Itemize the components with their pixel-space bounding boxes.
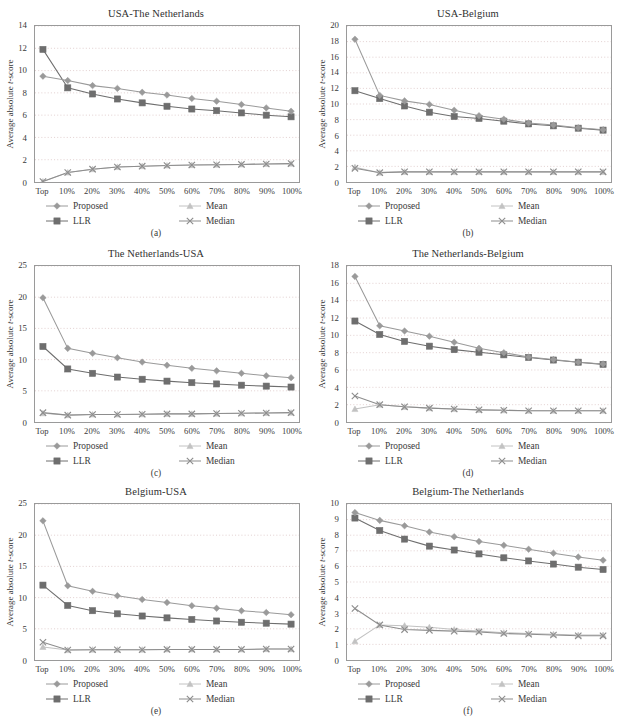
- legend-symbol-mean: [179, 679, 201, 689]
- plot-canvas: [34, 503, 300, 661]
- x-tick-label: 50%: [471, 426, 487, 436]
- x-tick-label: 90%: [259, 186, 275, 196]
- y-tick-label: 15: [18, 561, 27, 571]
- panel-caption: (e): [0, 706, 312, 716]
- legend-item-mean: Mean: [167, 198, 300, 213]
- legend-item-mean: Mean: [167, 676, 300, 691]
- x-tick-label: 80%: [234, 664, 250, 674]
- legend-symbol-mean: [491, 679, 513, 689]
- y-tick-label: 2: [335, 624, 339, 634]
- y-tick-label: 18: [330, 36, 339, 46]
- legend-symbol-mean: [179, 201, 201, 211]
- legend-label-proposed: Proposed: [385, 441, 420, 451]
- y-tick-label: 2: [335, 400, 339, 410]
- y-tick-label: 15: [18, 323, 27, 333]
- legend-label-llr: LLR: [73, 456, 91, 466]
- chart-title: Belgium-The Netherlands: [312, 478, 624, 499]
- y-tick-label: 16: [330, 278, 339, 288]
- x-tick-label: 100%: [594, 426, 614, 436]
- legend-item-mean: Mean: [167, 438, 300, 453]
- x-tick-label: 90%: [571, 186, 587, 196]
- y-axis-ticks: 012345678910: [316, 503, 342, 661]
- y-tick-label: 14: [330, 295, 339, 305]
- x-tick-label: 100%: [282, 186, 302, 196]
- y-tick-label: 4: [335, 383, 339, 393]
- x-tick-label: Top: [347, 426, 360, 436]
- x-tick-label: 70%: [521, 664, 537, 674]
- chart-legend: Proposed Mean LLR Median: [34, 438, 300, 470]
- legend-item-mean: Mean: [479, 676, 612, 691]
- chart-panel-c: The Netherlands-USA Average absolute t-s…: [0, 240, 312, 478]
- x-tick-label: 20%: [84, 426, 100, 436]
- y-tick-label: 0: [23, 418, 27, 428]
- legend-symbol-median: [491, 456, 513, 466]
- x-tick-label: 40%: [446, 664, 462, 674]
- y-tick-label: 6: [335, 131, 339, 141]
- x-tick-label: 10%: [59, 186, 75, 196]
- plot-area-wrapper: Average absolute t-score 012345678910 To…: [346, 503, 612, 661]
- x-tick-label: Top: [35, 664, 48, 674]
- y-tick-label: 25: [18, 498, 27, 508]
- legend-item-llr: LLR: [34, 453, 167, 468]
- legend-item-proposed: Proposed: [346, 438, 479, 453]
- x-tick-label: 90%: [259, 664, 275, 674]
- legend-label-llr: LLR: [385, 694, 403, 704]
- y-tick-label: 20: [18, 292, 27, 302]
- x-tick-label: 10%: [59, 664, 75, 674]
- legend-label-mean: Mean: [518, 441, 539, 451]
- x-tick-label: 50%: [471, 664, 487, 674]
- x-tick-label: 90%: [571, 664, 587, 674]
- x-tick-label: 30%: [109, 664, 125, 674]
- x-tick-label: 70%: [209, 664, 225, 674]
- legend-symbol-proposed: [46, 201, 68, 211]
- x-tick-label: 60%: [496, 186, 512, 196]
- legend-symbol-mean: [491, 441, 513, 451]
- y-tick-label: 6: [335, 561, 339, 571]
- gridlines: [347, 504, 611, 644]
- y-tick-label: 0: [335, 178, 339, 188]
- panel-caption: (b): [312, 228, 624, 238]
- chart-legend: Proposed Mean LLR Median: [346, 438, 612, 470]
- legend-symbol-mean: [179, 441, 201, 451]
- legend-label-median: Median: [206, 456, 235, 466]
- legend-item-llr: LLR: [346, 213, 479, 228]
- legend-symbol-llr: [358, 216, 380, 226]
- legend-symbol-llr: [358, 694, 380, 704]
- x-tick-label: 60%: [496, 426, 512, 436]
- chart-legend: Proposed Mean LLR Median: [346, 198, 612, 230]
- x-tick-label: 10%: [371, 426, 387, 436]
- legend-item-proposed: Proposed: [34, 198, 167, 213]
- y-tick-label: 25: [18, 260, 27, 270]
- y-tick-label: 7: [335, 545, 339, 555]
- x-tick-label: 40%: [134, 664, 150, 674]
- chart-legend: Proposed Mean LLR Median: [34, 676, 300, 708]
- x-axis-ticks: Top10%20%30%40%50%60%70%80%90%100%: [346, 183, 612, 199]
- legend-symbol-median: [179, 216, 201, 226]
- x-tick-label: 70%: [209, 186, 225, 196]
- chart-title: The Netherlands-Belgium: [312, 240, 624, 261]
- x-tick-label: 90%: [571, 426, 587, 436]
- y-tick-label: 12: [18, 43, 27, 53]
- x-tick-label: 70%: [521, 186, 537, 196]
- x-tick-label: 10%: [59, 426, 75, 436]
- x-axis-ticks: Top10%20%30%40%50%60%70%80%90%100%: [346, 661, 612, 677]
- x-tick-label: 80%: [546, 426, 562, 436]
- legend-symbol-proposed: [358, 441, 380, 451]
- legend-label-mean: Mean: [206, 441, 227, 451]
- legend-item-mean: Mean: [479, 198, 612, 213]
- gridlines: [35, 266, 299, 391]
- y-tick-label: 0: [335, 418, 339, 428]
- y-tick-label: 10: [330, 99, 339, 109]
- x-tick-label: 100%: [594, 664, 614, 674]
- chart-title: The Netherlands-USA: [0, 240, 312, 261]
- chart-legend: Proposed Mean LLR Median: [346, 676, 612, 708]
- legend-item-llr: LLR: [34, 213, 167, 228]
- x-tick-label: 60%: [184, 426, 200, 436]
- panel-caption: (a): [0, 228, 312, 238]
- panel-caption: (c): [0, 468, 312, 478]
- x-tick-label: Top: [347, 186, 360, 196]
- legend-symbol-proposed: [358, 201, 380, 211]
- x-tick-label: 40%: [134, 186, 150, 196]
- gridlines: [347, 26, 611, 166]
- gridlines: [347, 266, 611, 405]
